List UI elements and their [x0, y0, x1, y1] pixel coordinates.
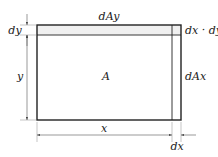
label-y: y: [16, 70, 24, 83]
label-A: A: [101, 70, 110, 83]
strip-dAx: [172, 35, 181, 120]
label-dx: dx: [170, 140, 184, 153]
area-increment-diagram: dAy dy dx · dy y A dAx x dx: [0, 0, 218, 157]
strip-dAy: [37, 25, 181, 35]
label-dAy: dAy: [99, 10, 121, 23]
label-x: x: [101, 122, 108, 135]
label-corner-dxdy: dx · dy: [185, 24, 218, 37]
label-dAx: dAx: [185, 70, 207, 83]
label-dy: dy: [8, 24, 22, 37]
